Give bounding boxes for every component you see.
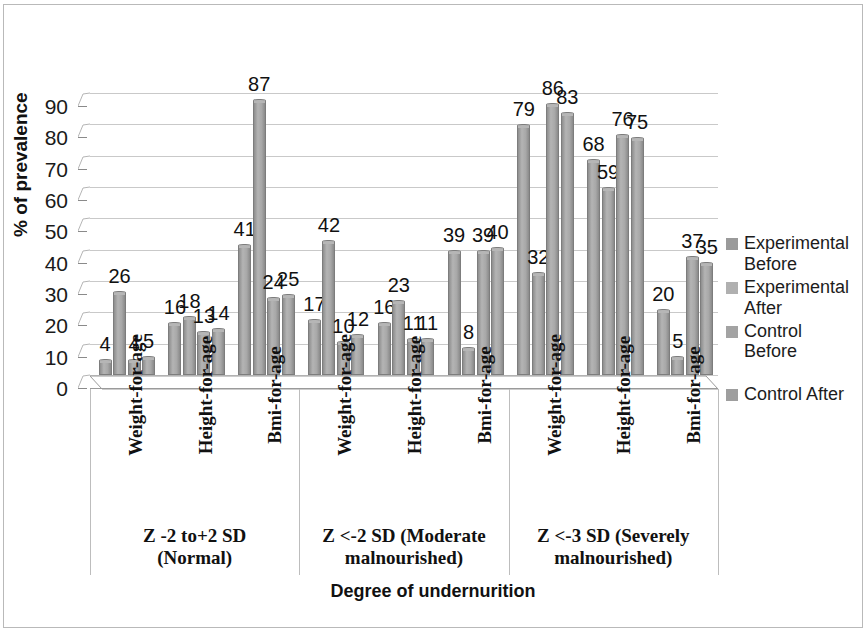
bar — [253, 102, 266, 375]
category-axis: Weight-for-ageHeight-for-ageBmi-for-ageW… — [90, 389, 718, 575]
legend-label-line: Experimental — [744, 233, 849, 254]
chart-legend: ExperimentalBeforeExperimentalAfterContr… — [726, 233, 860, 407]
y-axis-tick-label: 70 — [45, 158, 68, 182]
category-label: Weight-for-age — [544, 334, 566, 456]
bar-top-cap — [532, 272, 545, 276]
category-label: Weight-for-age — [125, 334, 147, 456]
bar-top-cap — [700, 262, 713, 266]
major-category-label-line: (Normal) — [90, 547, 299, 569]
bar-top-cap — [631, 137, 644, 141]
bar-top-cap — [197, 331, 210, 335]
bar-value-label: 11 — [417, 312, 438, 335]
legend-label-line: After — [744, 298, 849, 319]
bar-top-cap — [238, 244, 251, 248]
bar-top-cap — [448, 250, 461, 254]
bar-value-label: 35 — [696, 236, 718, 259]
bar — [168, 325, 181, 375]
bar-value-label: 5 — [672, 330, 683, 353]
bar-value-label: 40 — [486, 221, 508, 244]
bar-top-cap — [168, 322, 181, 326]
chart-frame: % of prevalence 0102030405060708090 4264… — [3, 4, 863, 628]
legend-label: Control Before — [744, 321, 860, 363]
major-category-label-line: Z -2 to+2 SD — [90, 525, 299, 547]
y-axis-tick-label: 80 — [45, 126, 68, 150]
y-axis-tickmark — [78, 200, 87, 201]
y-axis-title: % of prevalence — [10, 92, 32, 237]
y-axis-tickmark — [78, 388, 87, 389]
major-category-label-line: malnourished) — [299, 547, 508, 569]
legend-swatch — [726, 326, 738, 338]
legend-item[interactable]: Control Before — [726, 321, 860, 363]
major-category-label: Z <-2 SD (Moderatemalnourished) — [299, 525, 508, 569]
major-category-label-line: Z <-2 SD (Moderate — [299, 525, 508, 547]
bar-top-cap — [491, 247, 504, 251]
bar-top-cap — [113, 291, 126, 295]
y-axis-tickmark — [78, 263, 87, 264]
bar-series-container: 4264516181314418724251742101216231111398… — [90, 93, 718, 375]
bar-value-label: 14 — [207, 302, 229, 325]
bar-value-label: 8 — [463, 321, 474, 344]
bar-top-cap — [253, 99, 266, 103]
y-axis-tick-label: 40 — [45, 252, 68, 276]
bar — [657, 312, 670, 375]
y-axis-tickmark — [78, 294, 87, 295]
bar-top-cap — [392, 300, 405, 304]
bar — [448, 253, 461, 375]
major-category-label: Z -2 to+2 SD(Normal) — [90, 525, 299, 569]
legend-label: Control After — [744, 384, 844, 405]
bar-top-cap — [657, 309, 670, 313]
legend-label-line: Control Before — [744, 321, 860, 363]
bar-top-cap — [616, 134, 629, 138]
legend-swatch — [726, 389, 738, 401]
category-label: Weight-for-age — [334, 334, 356, 456]
major-category-label-line: malnourished) — [509, 547, 718, 569]
bar — [308, 322, 321, 375]
legend-label: ExperimentalBefore — [744, 233, 849, 275]
bar-top-cap — [267, 297, 280, 301]
legend-swatch — [726, 238, 738, 250]
bar-value-label: 42 — [318, 214, 340, 237]
y-axis-tickmark — [78, 231, 87, 232]
bar-top-cap — [282, 294, 295, 298]
bar — [587, 162, 600, 375]
legend-swatch — [726, 282, 738, 294]
bar-value-label: 75 — [626, 111, 648, 134]
bar-top-cap — [561, 112, 574, 116]
bar-top-cap — [212, 328, 225, 332]
category-label: Height-for-age — [404, 336, 426, 455]
bar-value-label: 4 — [100, 333, 111, 356]
y-axis-tick-label: 0 — [56, 377, 68, 401]
major-category-label-line: Z <-3 SD (Severely — [509, 525, 718, 547]
y-axis-tick-label: 90 — [45, 95, 68, 119]
bar-top-cap — [517, 124, 530, 128]
bar-value-label: 39 — [443, 224, 465, 247]
category-label: Bmi-for-age — [683, 346, 705, 443]
bar-value-label: 12 — [347, 308, 369, 331]
y-axis-tickmark — [78, 137, 87, 138]
bar-value-label: 20 — [652, 283, 674, 306]
bar-top-cap — [378, 322, 391, 326]
y-axis-tick-label: 20 — [45, 314, 68, 338]
plot-area: 4264516181314418724251742101216231111398… — [90, 93, 718, 375]
bar-top-cap — [602, 187, 615, 191]
bar-value-label: 79 — [513, 98, 535, 121]
bar — [99, 362, 112, 375]
category-label: Bmi-for-age — [264, 346, 286, 443]
legend-label-line: Before — [744, 254, 849, 275]
major-category-separator — [718, 389, 719, 575]
legend-item[interactable]: Control After — [726, 384, 860, 405]
bar-value-label: 83 — [556, 86, 578, 109]
y-axis-tick-label: 60 — [45, 189, 68, 213]
category-label: Bmi-for-age — [474, 346, 496, 443]
y-axis-tickmark — [78, 325, 87, 326]
legend-label: ExperimentalAfter — [744, 277, 849, 319]
bar-value-label: 23 — [388, 274, 410, 297]
bar-top-cap — [308, 319, 321, 323]
bar-value-label: 26 — [109, 265, 131, 288]
bar-value-label: 87 — [248, 73, 270, 96]
bar-value-label: 25 — [277, 268, 299, 291]
legend-item[interactable]: ExperimentalBefore — [726, 233, 860, 275]
legend-item[interactable]: ExperimentalAfter — [726, 277, 860, 319]
bar-top-cap — [322, 240, 335, 244]
bar — [378, 325, 391, 375]
